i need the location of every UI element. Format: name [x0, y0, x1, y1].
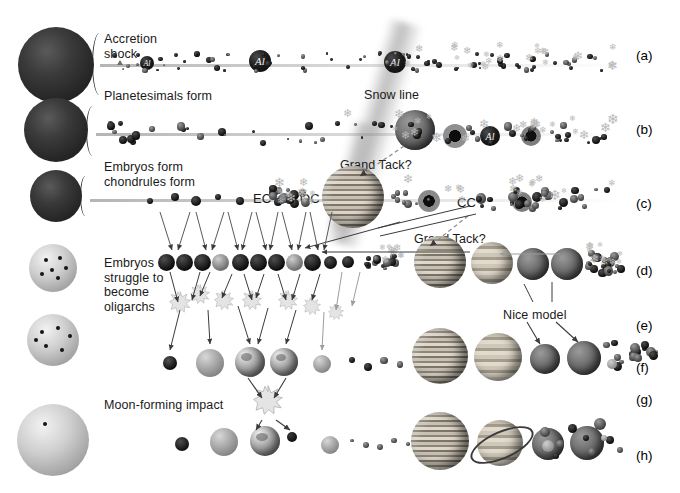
- dust-grain-row-c: [415, 202, 418, 205]
- dust-grain-row-a: [432, 59, 437, 64]
- row-label-d: (d): [636, 263, 653, 278]
- dust-grain-row-a: [407, 54, 411, 58]
- protosun-row-b: [24, 98, 88, 162]
- cc-chondrite-row-c: [571, 187, 578, 194]
- residual-debris-row-f: [397, 361, 404, 368]
- dust-grain-row-a: [265, 61, 271, 67]
- annotation-planetesimals: Planetesimals form: [104, 89, 212, 104]
- embryo-row-c: [236, 197, 244, 205]
- dust-grain-row-a: [563, 60, 568, 65]
- snowflake-icon: ❄: [404, 60, 412, 68]
- residual-debris-row-f: [380, 357, 387, 364]
- dust-grain-row-a: [126, 64, 130, 68]
- planetesimal-row-b: [197, 133, 203, 139]
- dust-grain-row-a: [142, 68, 147, 73]
- differentiated-body-c1: [418, 190, 440, 212]
- dust-grain-row-a: [378, 53, 381, 56]
- figure-canvas: Accretion shock Al Al Al (a) Planetesima…: [0, 0, 680, 493]
- planetesimal-row-b: [475, 136, 481, 142]
- snowflake-icon: ❄: [466, 62, 474, 70]
- snowflake-icon: ❄: [443, 184, 453, 194]
- earth-continents-row-h: [256, 433, 268, 441]
- snowflake-icon: ❄: [414, 44, 424, 54]
- kuiper-object-row-h: [594, 418, 606, 430]
- dust-grain-row-c: [391, 194, 396, 199]
- dust-grain-row-a: [254, 69, 258, 73]
- planetesimal-row-b: [287, 138, 290, 141]
- dust-grain-row-a: [174, 53, 178, 57]
- sunspot: [50, 268, 54, 272]
- snowflake-icon: ❄: [524, 53, 534, 63]
- snowflake-icon: ❄: [541, 59, 549, 67]
- collision-burst: [169, 291, 191, 313]
- proto-earth-row-f: [235, 347, 265, 377]
- cc-chondrite-row-c: [570, 195, 579, 204]
- dust-grain-row-a: [587, 54, 592, 59]
- snowflake-icon: ❄: [529, 117, 539, 128]
- planetesimal-row-b: [445, 138, 451, 144]
- dust-grain-row-a: [402, 53, 405, 56]
- planetesimal-row-b: [119, 136, 127, 144]
- planetesimal-row-b: [149, 126, 154, 131]
- embryo-row-d: [212, 254, 229, 271]
- embryo-row-d: [176, 254, 193, 271]
- dust-grain-row-a: [385, 60, 389, 64]
- planetesimal-row-b: [559, 139, 562, 142]
- kuiper-object-row-f: [649, 351, 658, 360]
- embryo-row-d: [250, 254, 267, 271]
- snowflake-icon: ❄: [548, 121, 556, 129]
- kuiper-object-row-h: [606, 436, 614, 444]
- mars-row-h: [321, 436, 339, 454]
- snowflake-icon: ❄: [393, 108, 405, 120]
- theia-surface-row-f: [276, 354, 286, 361]
- embryo-row-d: [232, 254, 249, 271]
- snowflake-icon: ❄: [578, 129, 590, 141]
- cc-chondrite-row-c: [578, 194, 585, 201]
- dust-grain-row-a: [277, 54, 280, 57]
- jupiter-row-h: [411, 412, 469, 470]
- jupiter-row-d: [414, 236, 466, 288]
- saturn-row-f: [474, 333, 522, 381]
- kuiper-object-row-h: [540, 427, 550, 437]
- dust-grain-row-a: [136, 53, 140, 57]
- annotation-nice-model: Nice model: [503, 308, 567, 323]
- embryo-row-d: [158, 254, 175, 271]
- dust-grain-row-a: [416, 55, 420, 59]
- saturn-row-d: [471, 242, 513, 284]
- dust-grain-row-a: [253, 65, 255, 67]
- debris-row-d: [366, 256, 371, 261]
- snowflake-icon: ❄: [458, 195, 468, 205]
- residual-debris-row-h: [377, 444, 384, 451]
- cc-chondrite-row-c: [558, 206, 562, 210]
- snowflake-icon: ❄: [495, 54, 505, 64]
- snowflake-icon: ❄: [388, 246, 399, 257]
- row-label-g: (g): [636, 392, 653, 407]
- snowflake-icon: ❄: [453, 54, 460, 61]
- snowflake-icon: ❄: [301, 196, 309, 204]
- sunspot: [44, 258, 48, 262]
- planetesimal-row-b: [601, 134, 606, 139]
- dust-grain-row-a: [183, 60, 186, 63]
- embryo-row-d: [194, 254, 211, 271]
- dust-grain-row-a: [457, 67, 459, 69]
- sunspot: [40, 330, 44, 334]
- snowflake-icon: ❄: [401, 130, 412, 141]
- planetesimal-row-b: [560, 122, 567, 129]
- planetesimal-row-b: [555, 134, 561, 140]
- planetesimal-row-b: [592, 136, 600, 144]
- dust-grain-row-a: [156, 69, 158, 71]
- residual-debris-row-f: [349, 357, 355, 363]
- theia-row-f: [270, 348, 298, 376]
- snowflake-icon: ❄: [483, 51, 491, 59]
- ice-giant-1-row-d: [517, 248, 549, 280]
- dust-grain-row-c: [403, 190, 409, 196]
- snowflake-icon: ❄: [392, 126, 399, 133]
- collision-burst: [278, 290, 298, 310]
- snowflake-icon: ❄: [425, 113, 432, 120]
- sunspot: [60, 348, 64, 352]
- dust-grain-row-a: [475, 52, 479, 56]
- snowflake-icon: ❄: [450, 41, 459, 50]
- snowflake-icon: ❄: [607, 179, 616, 188]
- residual-debris-row-h: [406, 442, 410, 446]
- planetesimal-row-b: [305, 122, 313, 130]
